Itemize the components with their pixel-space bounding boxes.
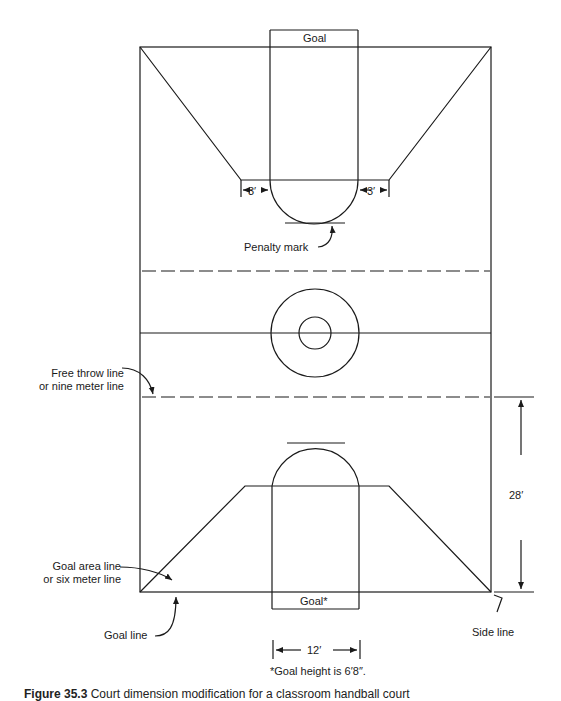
figure-caption-text: Court dimension modification for a class… [91, 687, 410, 701]
goal-area-arc-bottom [272, 449, 359, 486]
goal-area-label-1: Goal area line [53, 560, 122, 573]
bottom-goal-label: Goal* [300, 595, 328, 608]
dim-free-throw-distance: 28′ [509, 489, 523, 502]
side-line-label: Side line [472, 626, 514, 639]
court-boundary [140, 47, 491, 592]
goal-area-label-2: or six meter line [43, 573, 121, 586]
free-throw-leader [122, 368, 153, 394]
dim-right-offset: 3′ [367, 185, 375, 198]
goal-line-label: Goal line [104, 629, 147, 642]
goal-height-footnote: *Goal height is 6′8″. [270, 665, 366, 678]
free-throw-label-1: Free throw line [51, 367, 124, 380]
goal-area-leader [120, 567, 172, 580]
goal-area-line-bottom [140, 486, 491, 592]
dim-left-offset: 3′ [248, 185, 256, 198]
top-goal-label: Goal [303, 32, 326, 45]
goal-area-arc-top [270, 180, 358, 224]
figure-number: Figure 35.3 [24, 687, 87, 701]
goal-area-line-top [140, 47, 491, 180]
goal-line-leader [155, 597, 176, 636]
figure-caption: Figure 35.3 Court dimension modification… [24, 687, 410, 701]
side-line-leader [494, 595, 502, 612]
dim-goal-width: 12′ [307, 644, 321, 657]
free-throw-label-2: or nine meter line [39, 380, 124, 393]
penalty-mark-label: Penalty mark [244, 241, 308, 254]
